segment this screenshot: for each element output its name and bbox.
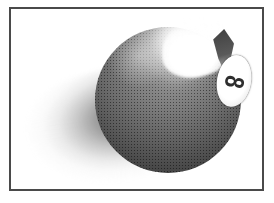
frame-plate: 8 [11,9,262,189]
eight-ball-artwork: 8 [11,9,262,189]
image-canvas: 8 [0,0,274,203]
eight-ball-number-text: 8 [220,73,249,90]
picture-frame: 8 [9,7,264,191]
